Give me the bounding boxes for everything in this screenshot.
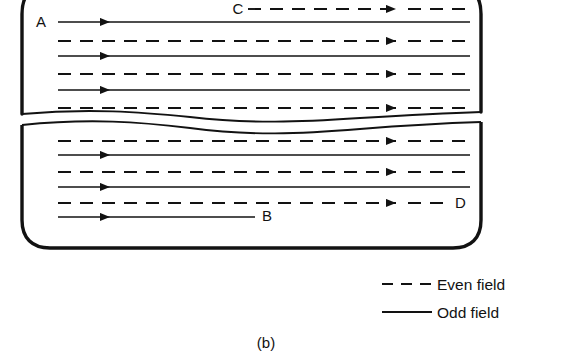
figure-container: A B C D Even field Odd field (b) bbox=[0, 0, 561, 359]
label-d: D bbox=[455, 194, 466, 211]
legend: Even field Odd field bbox=[382, 276, 505, 321]
label-b: B bbox=[262, 207, 272, 224]
legend-item-odd-field: Odd field bbox=[382, 304, 499, 321]
figure-caption: (b) bbox=[257, 334, 275, 351]
label-a: A bbox=[36, 13, 46, 30]
label-c: C bbox=[233, 0, 244, 17]
top-field-outline bbox=[22, 0, 481, 122]
bottom-field-scanlines bbox=[58, 141, 470, 217]
legend-item-even-field: Even field bbox=[382, 276, 505, 293]
top-field-scanlines bbox=[58, 9, 470, 108]
legend-label-even-field: Even field bbox=[437, 276, 505, 293]
interlaced-scan-diagram: A B C D Even field Odd field (b) bbox=[0, 0, 561, 359]
legend-label-odd-field: Odd field bbox=[437, 304, 499, 321]
